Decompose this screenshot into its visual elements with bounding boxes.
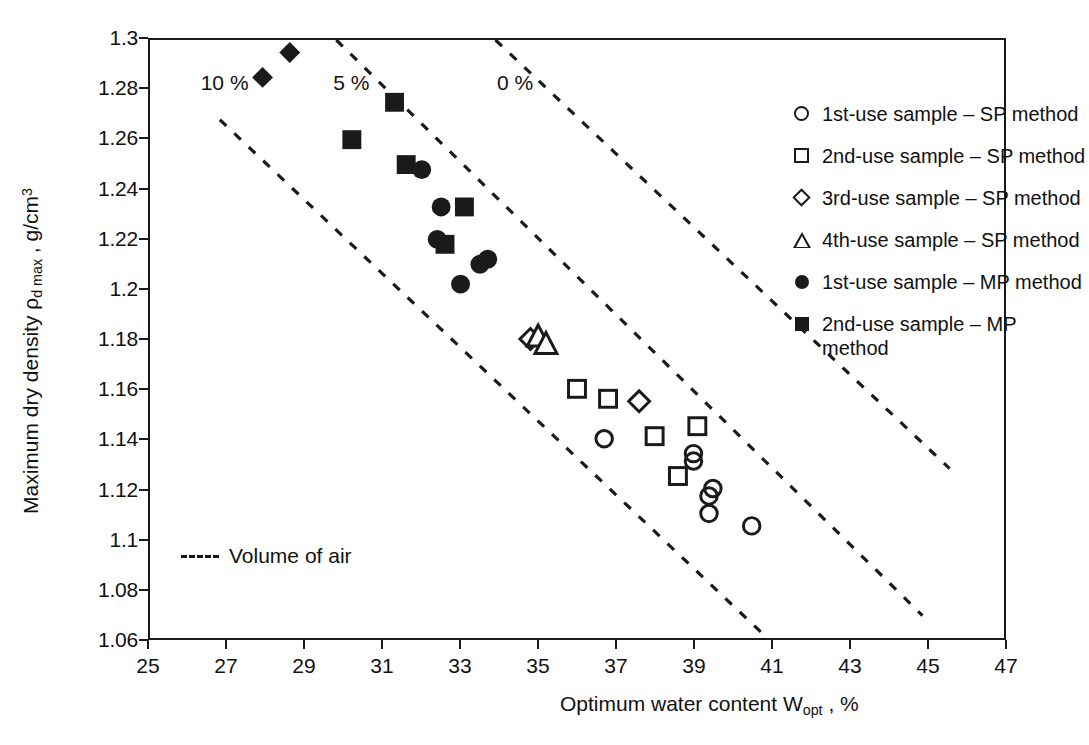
series-group [342,93,473,254]
marker-square-filled [342,130,361,149]
x-axis-title-pre: Optimum water content W [560,692,803,715]
y-tick-mark [139,137,148,139]
marker-circle-open [743,518,760,534]
y-tick-mark [139,37,148,39]
marker-circle-filled [478,250,497,269]
marker-square-filled [397,155,416,174]
legend-item[interactable]: 2nd-use sample – SP method [791,144,1089,169]
y-tick-mark [139,87,148,89]
legend-item-label: 1st-use sample – MP method [822,270,1082,294]
x-tick-label: 27 [196,654,256,678]
marker-square-filled [436,235,455,254]
x-tick-mark [693,640,695,649]
marker-diamond-filled [279,42,300,63]
legend-marker-square-filled-icon [791,313,815,337]
x-tick-mark [381,640,383,649]
marker-diamond-filled [252,67,273,88]
marker-square-open [569,380,586,397]
y-tick-label: 1.08 [52,578,138,602]
legend-item-label: 4th-use sample – SP method [822,228,1080,252]
legend-item[interactable]: 1st-use sample – SP method [791,102,1089,127]
y-tick-mark [139,589,148,591]
marker-square-open [646,428,663,445]
marker-circle-filled [432,198,451,217]
x-tick-mark [927,640,929,649]
x-tick-label: 29 [274,654,334,678]
y-tick-label: 1.22 [52,227,138,251]
y-tick-label: 1.1 [52,528,138,552]
x-tick-mark [459,640,461,649]
x-tick-label: 35 [508,654,568,678]
marker-square-open [600,390,617,407]
x-tick-label: 31 [352,654,412,678]
x-tick-label: 43 [820,654,880,678]
y-axis-title-sup: 3 [19,188,35,196]
y-tick-mark [139,539,148,541]
marker-square-filled [455,198,474,217]
y-tick-label: 1.16 [52,377,138,401]
x-tick-label: 45 [898,654,958,678]
legend-marker-diamond-open-icon [791,187,815,211]
legend-marker-square-open-icon [791,145,815,169]
x-axis-title: Optimum water content Wopt , % [560,692,859,718]
y-tick-label: 1.3 [52,26,138,50]
marker-square-filled [385,93,404,112]
y-tick-label: 1.24 [52,177,138,201]
x-tick-label: 41 [742,654,802,678]
series-group [412,160,497,293]
x-tick-mark [615,640,617,649]
legend-marker-circle-filled-icon [791,271,815,295]
marker-circle-open [596,430,613,446]
marker-circle-open [701,505,718,521]
legend-marker-triangle-open-icon [791,229,815,253]
volume-of-air-label: Volume of air [229,544,352,568]
y-tick-mark [139,338,148,340]
x-tick-mark [225,640,227,649]
x-tick-mark [849,640,851,649]
x-tick-label: 25 [118,654,178,678]
legend-item[interactable]: 3rd-use sample – SP method [791,186,1089,211]
y-tick-mark [139,489,148,491]
dashed-line-icon [181,555,219,558]
legend-item-label: 2nd-use sample – MP method [822,312,1017,361]
y-axis-title: Maximum dry density ρd max , g/cm3 [19,71,45,631]
y-axis-title-sub: d max [29,259,45,298]
y-tick-label: 1.28 [52,76,138,100]
x-axis-title-sub: opt [803,702,823,718]
legend-item[interactable]: 4th-use sample – SP method [791,228,1089,253]
series-group [252,42,300,88]
y-tick-mark [139,438,148,440]
y-axis-title-pre: Maximum dry density ρ [19,298,42,514]
y-tick-mark [139,188,148,190]
x-tick-label: 47 [976,654,1036,678]
y-tick-mark [139,288,148,290]
air-void-percent-label: 10 % [201,71,249,95]
y-tick-label: 1.06 [52,628,138,652]
y-axis-title-mid: , g/cm [19,196,42,259]
legend: 1st-use sample – SP method2nd-use sample… [791,102,1089,378]
y-tick-label: 1.2 [52,277,138,301]
x-tick-label: 37 [586,654,646,678]
volume-of-air-key: Volume of air [181,544,352,568]
x-axis-title-post: , % [823,692,859,715]
y-tick-label: 1.26 [52,126,138,150]
legend-item-label: 1st-use sample – SP method [822,102,1078,126]
y-tick-mark [139,388,148,390]
air-void-percent-label: 5 % [333,71,369,95]
x-tick-mark [303,640,305,649]
y-tick-label: 1.14 [52,427,138,451]
legend-item-label: 3rd-use sample – SP method [822,186,1081,210]
y-tick-label: 1.18 [52,327,138,351]
air-void-percent-label: 0 % [497,71,533,95]
x-tick-mark [1005,640,1007,649]
marker-square-open [669,468,686,485]
legend-item-label: 2nd-use sample – SP method [822,144,1085,168]
legend-item[interactable]: 2nd-use sample – MP method [791,312,1089,361]
y-axis-title-container: Maximum dry density ρd max , g/cm3 [0,38,40,640]
legend-item[interactable]: 1st-use sample – MP method [791,270,1089,295]
legend-marker-circle-open-icon [791,103,815,127]
y-tick-label: 1.12 [52,478,138,502]
marker-square-open [689,418,706,435]
marker-diamond-open [629,391,650,412]
